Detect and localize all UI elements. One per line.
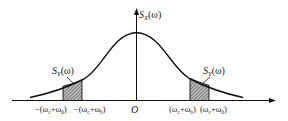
tick-label-pos-outer: (ωc+ω0) [200,104,227,115]
tick-label-neg-inner: −(ωc+ωb) [74,104,106,115]
band-label-left: SY(ω) [52,65,74,77]
band-left [63,80,82,101]
spectrum-diagram: SX(ω) SY(ω) SY(ω) O −(ωc+ω0) −(ωc+ωb) (ω… [0,0,288,121]
origin-label: O [131,104,138,115]
band-label-right: SY(ω) [203,65,225,77]
x-axis-arrow-icon [269,98,276,103]
leader-line-right [203,77,210,83]
band-right [190,78,209,100]
leader-line-left [67,77,73,83]
tick-label-pos-inner: (ωc+ωb) [169,104,196,115]
y-axis-label: SX(ω) [139,9,161,21]
tick-label-neg-outer: −(ωc+ω0) [35,104,67,115]
